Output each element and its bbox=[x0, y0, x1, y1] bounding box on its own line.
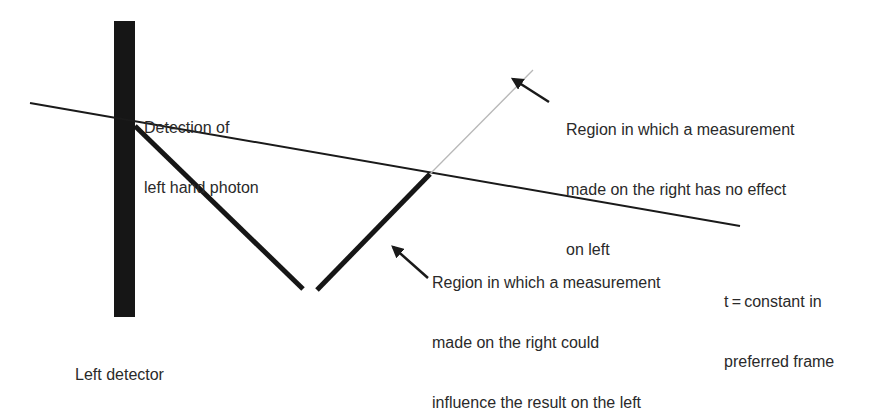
no-effect-label-line-1: Region in which a measurement bbox=[566, 120, 795, 140]
outside-cone-thin-line bbox=[430, 70, 533, 174]
arrow-no-effect-region bbox=[513, 79, 549, 102]
t-constant-label: t = constant in preferred frame bbox=[724, 252, 834, 392]
influence-label-line-3: influence the result on the left bbox=[432, 393, 661, 412]
left-detector-bar bbox=[114, 21, 135, 317]
detection-label-line-2: left hand photon bbox=[144, 178, 259, 198]
influence-label-line-1: Region in which a measurement bbox=[432, 273, 661, 293]
no-effect-label-line-2: made on the right has no effect bbox=[566, 180, 795, 200]
influence-region-label: Region in which a measurement made on th… bbox=[432, 233, 661, 412]
left-detector-label: Left detector bbox=[75, 325, 164, 405]
detection-label: Detection of left hand photon bbox=[144, 78, 259, 218]
arrow-influence-region bbox=[393, 247, 428, 278]
left-detector-label-text: Left detector bbox=[75, 365, 164, 385]
t-constant-label-line-2: preferred frame bbox=[724, 352, 834, 372]
influence-label-line-2: made on the right could bbox=[432, 333, 661, 353]
t-constant-label-line-1: t = constant in bbox=[724, 292, 834, 312]
detection-label-line-1: Detection of bbox=[144, 118, 259, 138]
light-cone-right-edge bbox=[317, 174, 430, 290]
